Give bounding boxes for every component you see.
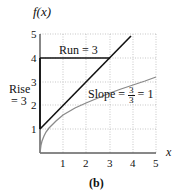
rise-label-line2: = 3 (11, 95, 27, 107)
y-tick-1: 1 (31, 124, 37, 135)
x-tick-1: 1 (60, 158, 66, 169)
x-tick-4: 4 (130, 158, 136, 169)
slope-suffix: = 1 (138, 87, 154, 101)
slope-fraction: 3 3 (128, 86, 135, 105)
x-tick-2: 2 (83, 158, 89, 169)
x-axis-label: x (166, 146, 171, 158)
slope-label: Slope = 3 3 = 1 (88, 86, 153, 105)
slope-denominator: 3 (128, 96, 135, 105)
run-label: Run = 3 (59, 44, 98, 56)
figure-caption: (b) (89, 177, 104, 189)
x-tick-5: 5 (153, 158, 159, 169)
y-tick-4: 4 (31, 53, 37, 64)
slope-prefix: Slope = (88, 87, 125, 101)
y-tick-2: 2 (31, 100, 37, 111)
y-tick-5: 5 (31, 29, 37, 40)
y-tick-3: 3 (31, 77, 37, 88)
x-tick-3: 3 (107, 158, 113, 169)
y-axis-label: f(x) (33, 6, 51, 18)
